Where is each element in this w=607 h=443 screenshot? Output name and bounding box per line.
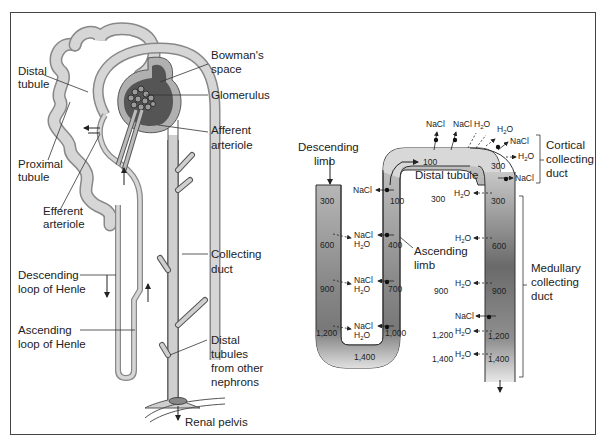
label-cortical-collecting-duct: Corticalcollectingduct: [546, 139, 594, 179]
svg-text:100: 100: [423, 157, 437, 167]
svg-text:300: 300: [491, 196, 505, 206]
svg-text:H2O: H2O: [455, 278, 471, 289]
svg-text:1,400: 1,400: [488, 354, 510, 364]
svg-text:300: 300: [431, 194, 445, 204]
label-ascending-loop: Ascendingloop of Henle: [18, 324, 86, 350]
label-bowmans-space: Bowman'sspace: [211, 49, 264, 75]
svg-text:1,200: 1,200: [316, 328, 338, 338]
svg-text:H2O: H2O: [497, 124, 513, 135]
svg-text:900: 900: [492, 286, 506, 296]
svg-text:H2O: H2O: [454, 188, 470, 199]
label-proximal-tubule: Proximaltubule: [18, 158, 63, 183]
label-medullary-collecting-duct: Medullarycollectingduct: [531, 262, 581, 302]
svg-text:400: 400: [388, 240, 402, 250]
label-efferent-arteriole: Efferentarteriole: [43, 205, 85, 230]
svg-text:H2O: H2O: [474, 119, 490, 130]
svg-text:600: 600: [320, 240, 334, 250]
label-descending-loop: Descendingloop of Henle: [18, 269, 86, 295]
svg-text:NaCl: NaCl: [353, 185, 372, 195]
svg-text:1,200: 1,200: [432, 330, 454, 340]
svg-text:NaCl: NaCl: [515, 173, 534, 183]
svg-text:NaCl: NaCl: [426, 119, 445, 129]
svg-text:600: 600: [492, 241, 506, 251]
svg-text:300: 300: [320, 196, 334, 206]
svg-text:H2O: H2O: [354, 284, 370, 295]
svg-text:H2O: H2O: [354, 239, 370, 250]
svg-text:H2O: H2O: [455, 349, 471, 360]
label-ascending-limb: Ascendinglimb: [414, 245, 468, 271]
label-descending-limb: Descendinglimb: [298, 141, 359, 167]
label-renal-pelvis: Renal pelvis: [185, 416, 248, 428]
svg-text:1,200: 1,200: [488, 331, 510, 341]
label-glomerulus: Glomerulus: [211, 89, 270, 101]
svg-text:1,400: 1,400: [432, 354, 454, 364]
svg-text:H2O: H2O: [455, 233, 471, 244]
label-distal-tubule-right: Distal tubule: [415, 169, 478, 181]
svg-text:H2O: H2O: [354, 330, 370, 341]
svg-text:300: 300: [491, 161, 505, 171]
nephron-diagram: Distaltubule Proximaltubule Efferentarte…: [0, 0, 607, 443]
label-distal-tubule: Distaltubule: [18, 65, 49, 90]
svg-text:1,400: 1,400: [354, 352, 376, 362]
svg-text:NaCl: NaCl: [453, 119, 472, 129]
svg-text:H2O: H2O: [518, 151, 534, 162]
svg-text:100: 100: [390, 196, 404, 206]
label-distal-tubules-other: Distaltubulesfrom othernephrons: [211, 334, 264, 388]
svg-text:H2O: H2O: [455, 326, 471, 337]
svg-text:NaCl: NaCl: [455, 311, 474, 321]
svg-text:NaCl: NaCl: [510, 136, 529, 146]
svg-text:900: 900: [434, 286, 448, 296]
svg-text:900: 900: [320, 284, 334, 294]
svg-text:1,000: 1,000: [385, 328, 407, 338]
svg-text:700: 700: [388, 284, 402, 294]
